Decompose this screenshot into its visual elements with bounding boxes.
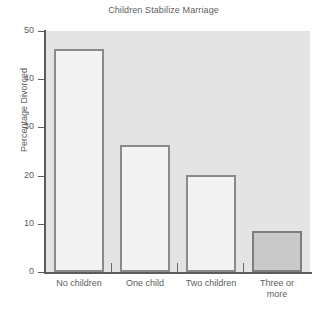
x-tick-mark: [111, 263, 112, 273]
y-tick-mark: [38, 224, 45, 225]
x-tick-label-line: One child: [112, 278, 178, 289]
y-tick-mark: [38, 127, 45, 128]
y-tick-mark: [38, 272, 45, 273]
bar: [120, 145, 170, 272]
bar-chart-figure: Children Stabilize Marriage Percentage D…: [0, 0, 327, 316]
x-tick-mark: [177, 263, 178, 273]
y-tick-label: 50: [0, 26, 34, 35]
x-tick-label-line: Three or: [244, 278, 310, 289]
y-tick-label: 40: [0, 74, 34, 83]
x-tick-label-line: No children: [46, 278, 112, 289]
y-axis-spine: [44, 30, 46, 274]
bar: [54, 49, 104, 272]
x-tick-label: Three ormore: [244, 278, 310, 300]
y-tick-label: 10: [0, 219, 34, 228]
x-tick-label: No children: [46, 278, 112, 289]
y-tick-label: 0: [0, 267, 34, 276]
x-tick-mark: [243, 263, 244, 273]
x-tick-label-line: more: [244, 289, 310, 300]
y-tick-label: 20: [0, 171, 34, 180]
x-axis-spine: [44, 272, 312, 274]
y-tick-mark: [38, 79, 45, 80]
x-tick-label-line: Two children: [178, 278, 244, 289]
x-tick-label: One child: [112, 278, 178, 289]
chart-title: Children Stabilize Marriage: [0, 5, 327, 15]
bar: [252, 231, 302, 272]
bar: [186, 175, 236, 272]
y-tick-mark: [38, 31, 45, 32]
y-tick-label: 30: [0, 122, 34, 131]
y-axis-label: Percentage Divorced: [19, 40, 29, 180]
x-tick-label: Two children: [178, 278, 244, 289]
y-tick-mark: [38, 176, 45, 177]
